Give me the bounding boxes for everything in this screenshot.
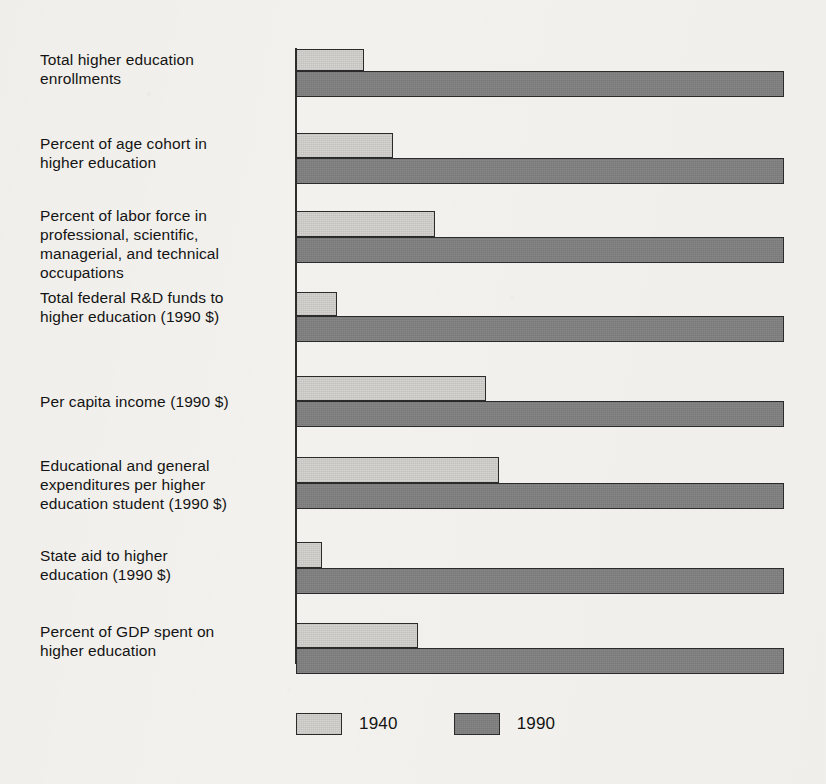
bar-group-per-capita-income: Per capita income (1990 $) xyxy=(0,372,826,454)
bar-group-percent-of-gdp-spent: Percent of GDP spent on higher education xyxy=(0,608,826,692)
category-label: Total higher education enrollments xyxy=(40,50,285,88)
category-label-line: Total federal R&D funds to xyxy=(40,288,285,307)
category-label-line: Per capita income (1990 $) xyxy=(40,392,285,411)
bar-1990 xyxy=(296,158,784,184)
bar-1990 xyxy=(296,316,784,342)
bar-chart: Total higher education enrollments Perce… xyxy=(0,0,826,784)
bar-group-percent-of-age-cohort: Percent of age cohort in higher educatio… xyxy=(0,132,826,212)
bar-group-percent-of-labor-force: Percent of labor force in professional, … xyxy=(0,206,826,292)
category-label-line: education student (1990 $) xyxy=(40,494,285,513)
bar-1940 xyxy=(296,292,337,316)
category-label-line: education (1990 $) xyxy=(40,565,285,584)
category-label-line: State aid to higher xyxy=(40,546,285,565)
legend-item-1940: 1940 xyxy=(296,713,398,735)
category-label-line: higher education xyxy=(40,641,285,660)
bar-1940 xyxy=(296,211,435,237)
bar-1990 xyxy=(296,401,784,427)
bar-1990 xyxy=(296,483,784,509)
category-label-line: Percent of labor force in xyxy=(40,206,285,225)
bar-1940 xyxy=(296,49,364,71)
bar-1940 xyxy=(296,133,393,158)
bar-1940 xyxy=(296,623,418,648)
category-label: Educational and general expenditures per… xyxy=(40,456,285,513)
bar-group-total-higher-education-enrollments: Total higher education enrollments xyxy=(0,48,826,132)
bar-group-total-federal-rd-funds: Total federal R&D funds to higher educat… xyxy=(0,288,826,372)
category-label: State aid to higher education (1990 $) xyxy=(40,546,285,584)
category-label: Percent of age cohort in higher educatio… xyxy=(40,134,285,172)
bar-1990 xyxy=(296,568,784,594)
category-label-line: higher education xyxy=(40,153,285,172)
bar-1990 xyxy=(296,237,784,263)
category-label: Total federal R&D funds to higher educat… xyxy=(40,288,285,326)
plot-area: Total higher education enrollments Perce… xyxy=(0,0,826,784)
legend-label-1940: 1940 xyxy=(359,714,398,734)
legend-item-1990: 1990 xyxy=(454,713,556,735)
category-label-line: occupations xyxy=(40,263,285,282)
bar-1940 xyxy=(296,542,322,568)
bar-1990 xyxy=(296,71,784,97)
category-label-line: higher education (1990 $) xyxy=(40,307,285,326)
legend-swatch-1940 xyxy=(296,713,342,735)
category-label: Percent of GDP spent on higher education xyxy=(40,622,285,660)
category-label-line: expenditures per higher xyxy=(40,475,285,494)
category-label-line: enrollments xyxy=(40,69,285,88)
category-label-line: Percent of age cohort in xyxy=(40,134,285,153)
category-label: Percent of labor force in professional, … xyxy=(40,206,285,282)
category-label-line: managerial, and technical xyxy=(40,244,285,263)
bar-1940 xyxy=(296,376,486,401)
category-label: Per capita income (1990 $) xyxy=(40,392,285,411)
legend-swatch-1990 xyxy=(454,713,500,735)
category-label-line: Total higher education xyxy=(40,50,285,69)
category-label-line: Percent of GDP spent on xyxy=(40,622,285,641)
category-label-line: Educational and general xyxy=(40,456,285,475)
bar-1990 xyxy=(296,648,784,674)
category-label-line: professional, scientific, xyxy=(40,225,285,244)
bar-group-educational-and-general-expenditures: Educational and general expenditures per… xyxy=(0,454,826,538)
legend: 1940 1990 xyxy=(296,713,555,735)
bar-1940 xyxy=(296,457,499,483)
legend-label-1990: 1990 xyxy=(517,714,556,734)
